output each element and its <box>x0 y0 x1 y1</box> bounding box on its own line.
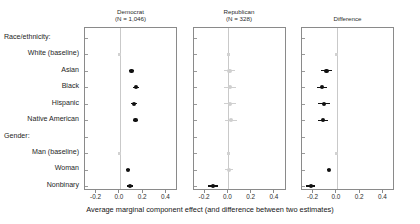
y-tick <box>85 170 88 171</box>
y-tick <box>85 71 88 72</box>
x-tick-label: 0.2 <box>239 193 263 200</box>
x-tick-label: 0.4 <box>262 193 286 200</box>
baseline-marker <box>227 152 230 155</box>
row-label-man-baseline: Man (baseline) <box>2 148 79 156</box>
x-tick-label: 0.4 <box>370 193 394 200</box>
y-tick <box>302 104 305 105</box>
x-tick-label: -0.2 <box>192 193 216 200</box>
x-tick-label: 0.0 <box>324 193 348 200</box>
y-tick <box>85 87 88 88</box>
baseline-marker <box>335 53 338 56</box>
row-label-gender: Gender: <box>2 132 81 140</box>
y-tick <box>302 153 305 154</box>
x-tick-label: 0.4 <box>153 193 177 200</box>
y-tick <box>302 71 305 72</box>
point-estimate <box>126 168 130 172</box>
point-estimate <box>322 102 326 106</box>
y-tick <box>302 186 305 187</box>
point-estimate <box>309 184 313 188</box>
baseline-marker <box>118 152 121 155</box>
x-tick-label: -0.2 <box>84 193 108 200</box>
point-estimate <box>229 118 233 122</box>
panel-difference <box>301 27 394 190</box>
panel-title-republican: Republican(N = 328) <box>193 8 286 23</box>
row-label-black: Black <box>2 82 79 90</box>
y-tick <box>194 137 197 138</box>
point-estimate <box>227 69 231 73</box>
panel-republican <box>193 27 286 190</box>
panel-title-democrat: Democrat(N = 1,046) <box>84 8 177 23</box>
x-axis-caption: Average marginal component effect (and d… <box>0 205 420 214</box>
row-label-nonbinary: Nonbinary <box>2 181 79 189</box>
y-tick <box>85 137 88 138</box>
y-tick <box>302 120 305 121</box>
point-estimate <box>327 168 331 172</box>
row-label-white-baseline: White (baseline) <box>2 49 79 57</box>
baseline-marker <box>118 53 121 56</box>
y-tick <box>302 38 305 39</box>
point-estimate <box>321 118 325 122</box>
row-label-hispanic: Hispanic <box>2 99 79 107</box>
panel-title-text: Democrat <box>84 8 177 15</box>
x-tick-label: 0.0 <box>107 193 131 200</box>
y-tick <box>194 87 197 88</box>
row-label-asian: Asian <box>2 66 79 74</box>
y-tick <box>85 120 88 121</box>
zero-reference-line <box>228 28 229 189</box>
row-label-race-ethnicity: Race/ethnicity: <box>2 33 81 41</box>
point-estimate <box>129 69 133 73</box>
y-tick <box>194 170 197 171</box>
y-tick <box>85 153 88 154</box>
y-tick <box>302 170 305 171</box>
panel-title-difference: Difference <box>301 15 394 22</box>
point-estimate <box>211 184 215 188</box>
y-tick <box>194 54 197 55</box>
panel-democrat <box>84 27 177 190</box>
x-tick-label: 0.2 <box>130 193 154 200</box>
y-tick <box>194 71 197 72</box>
panel-subtitle-text: (N = 328) <box>193 15 286 22</box>
baseline-marker <box>335 152 338 155</box>
y-tick <box>194 120 197 121</box>
point-estimate <box>132 102 136 106</box>
x-tick-label: 0.0 <box>215 193 239 200</box>
y-tick <box>85 104 88 105</box>
y-tick <box>302 87 305 88</box>
zero-reference-line <box>120 28 121 189</box>
zero-reference-line <box>337 28 338 189</box>
point-estimate <box>133 118 137 122</box>
forest-plot-figure: Democrat(N = 1,046)Republican(N = 328)Di… <box>0 0 420 224</box>
y-tick <box>85 186 88 187</box>
row-label-woman: Woman <box>2 164 79 172</box>
y-tick <box>194 186 197 187</box>
panel-title-text: Difference <box>301 15 394 22</box>
point-estimate <box>227 168 231 172</box>
y-tick <box>302 54 305 55</box>
y-tick <box>194 38 197 39</box>
x-tick-label: 0.2 <box>347 193 371 200</box>
y-tick <box>85 38 88 39</box>
x-tick-label: -0.2 <box>301 193 325 200</box>
y-tick <box>302 137 305 138</box>
point-estimate <box>128 184 132 188</box>
y-tick <box>85 54 88 55</box>
panel-subtitle-text: (N = 1,046) <box>84 15 177 22</box>
point-estimate <box>320 85 324 89</box>
y-tick <box>194 104 197 105</box>
point-estimate <box>324 69 328 73</box>
panel-title-text: Republican <box>193 8 286 15</box>
row-label-native-american: Native American <box>2 115 79 123</box>
baseline-marker <box>227 53 230 56</box>
y-tick <box>194 153 197 154</box>
point-estimate <box>134 85 138 89</box>
point-estimate <box>228 102 232 106</box>
point-estimate <box>228 85 232 89</box>
